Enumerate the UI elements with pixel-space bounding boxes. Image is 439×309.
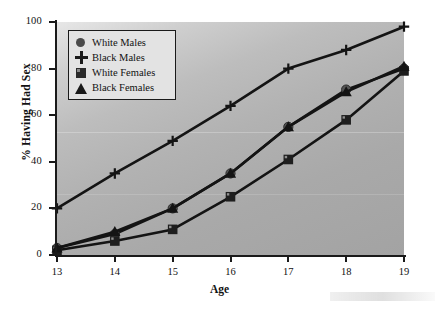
x-axis-tick-label: 17: [275, 266, 301, 277]
y-axis-tick: [49, 114, 57, 116]
x-axis-tick-label: 15: [160, 266, 186, 277]
circle-marker-icon: [74, 36, 89, 49]
plus-data-point: [399, 21, 409, 31]
y-axis-tick-label: 20: [12, 201, 42, 212]
legend-item-black-females: Black Females: [74, 80, 170, 95]
x-axis-tick: [230, 255, 232, 262]
square-marker-icon: [74, 66, 89, 79]
scan-artifact: [330, 292, 435, 301]
y-axis-tick-label: 100: [12, 15, 42, 26]
y-axis-tick-label: 0: [12, 248, 42, 259]
square-data-point: [168, 225, 178, 235]
chart-legend: White Males Black Males White Females Bl…: [68, 30, 176, 100]
x-axis-tick: [345, 255, 347, 262]
legend-label: White Females: [92, 66, 155, 79]
x-axis-tick: [403, 255, 405, 262]
legend-item-black-males: Black Males: [74, 50, 170, 65]
x-axis-tick: [56, 255, 58, 262]
plus-marker-icon: [74, 51, 89, 64]
x-axis-tick-label: 14: [102, 266, 128, 277]
y-axis-tick: [49, 21, 57, 23]
y-axis-tick: [49, 68, 57, 70]
square-data-point: [284, 155, 294, 165]
plus-data-point: [341, 45, 351, 55]
legend-item-white-males: White Males: [74, 35, 170, 50]
square-data-point: [226, 192, 236, 202]
x-axis-tick: [287, 255, 289, 262]
legend-label: Black Males: [92, 51, 145, 64]
x-axis-tick-label: 13: [44, 266, 70, 277]
y-axis-line: [55, 20, 57, 257]
y-axis-tick: [49, 207, 57, 209]
legend-label: White Males: [92, 36, 146, 49]
legend-item-white-females: White Females: [74, 65, 170, 80]
x-axis-tick-label: 18: [333, 266, 359, 277]
chart-figure: 020406080100 13141516171819 % Having Had…: [0, 0, 439, 309]
y-axis-title: % Having Had Sex: [20, 42, 32, 182]
triangle-marker-icon: [74, 81, 89, 94]
legend-label: Black Females: [92, 81, 154, 94]
x-axis-tick: [172, 255, 174, 262]
square-data-point: [110, 236, 120, 246]
square-data-point: [341, 115, 351, 125]
x-axis-tick-label: 19: [391, 266, 417, 277]
y-axis-tick: [49, 161, 57, 163]
x-axis-tick-label: 16: [218, 266, 244, 277]
x-axis-tick: [114, 255, 116, 262]
